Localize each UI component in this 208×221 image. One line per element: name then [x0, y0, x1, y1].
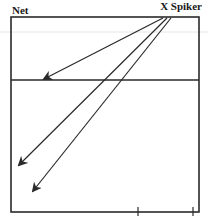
arrow-spike-deep: [33, 18, 171, 191]
net-label: Net: [12, 5, 29, 16]
arrow-spike-mid: [19, 18, 167, 165]
spiker-label: X Spiker: [160, 1, 202, 12]
arrow-spike-short: [44, 18, 163, 79]
court-diagram: [0, 0, 208, 221]
